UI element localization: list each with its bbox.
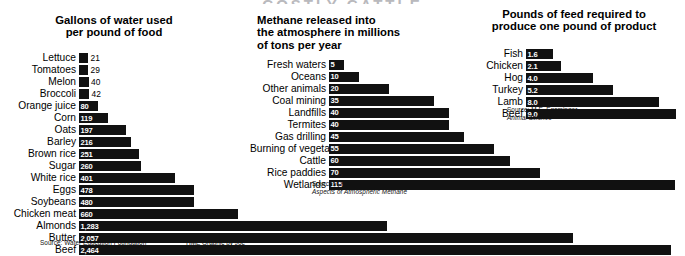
chart-source-feed-title: Animal Science: [507, 114, 552, 121]
bar: 2,464: [79, 245, 671, 255]
bar: 2,057: [79, 233, 573, 243]
bar-row: Broccoli42: [0, 89, 250, 100]
bar-row: Hog4.0: [465, 73, 685, 84]
chart-bars-water: Lettuce21Tomatoes29Melon40Broccoli42Oran…: [0, 39, 250, 256]
bar: [79, 77, 89, 87]
bar-row: Turkey5.2: [465, 85, 685, 96]
chart-source-methane: Source: Cicerone & Oremland, Biogeochemi…: [312, 180, 465, 195]
bar-label: Broccoli: [0, 89, 79, 99]
bar-label: Eggs: [0, 185, 79, 195]
bar-row: Coal mining35: [250, 95, 465, 106]
bar-row: Other animals20: [250, 83, 465, 94]
bar-row: Almonds1,283: [0, 221, 250, 232]
bar-value-label: 5.2: [526, 87, 537, 95]
bar-row: Eggs478: [0, 185, 250, 196]
bar-label: Other animals: [250, 84, 329, 94]
bar-value-label: 478: [79, 187, 93, 195]
bar-row: White rice401: [0, 173, 250, 184]
chart-bars-methane: Fresh waters5Oceans10Other animals20Coal…: [250, 51, 465, 190]
chart-title-methane: Methane released into the atmosphere in …: [250, 0, 465, 51]
bar-label: Chicken meat: [0, 209, 79, 219]
bar-row: Orange juice80: [0, 101, 250, 112]
bar: 5.2: [526, 85, 613, 95]
bar-row: Rice paddies70: [250, 167, 465, 178]
bar-row: Oceans10: [250, 71, 465, 82]
bar-row: Corn119: [0, 113, 250, 124]
bar-value-label: 480: [79, 199, 93, 207]
bar-label: Brown rice: [0, 149, 79, 159]
bar-label: Gas drilling: [250, 132, 329, 142]
bar-label: Almonds: [0, 221, 79, 231]
bar-row: Chicken meat660: [0, 209, 250, 220]
bar-value-label: 35: [329, 97, 339, 105]
bar: [79, 65, 88, 75]
bar-value-label: 42: [89, 90, 101, 98]
bar-row: Fresh waters5: [250, 59, 465, 70]
bar-value-label: 40: [329, 121, 339, 129]
bar: 35: [329, 96, 434, 106]
bar-value-label: 1.6: [526, 51, 537, 59]
bar: 20: [329, 84, 389, 94]
bar-label: Hog: [465, 73, 526, 83]
bar: 5: [329, 60, 344, 70]
bar-row: Landfills40: [250, 107, 465, 118]
bar-label: Fresh waters: [250, 60, 329, 70]
bar-value-label: 197: [79, 127, 93, 135]
bar: 660: [79, 209, 238, 219]
bar-value-label: 10: [329, 73, 339, 81]
bar-label: Melon: [0, 77, 79, 87]
bar-value-label: 8.0: [526, 99, 537, 107]
bar-row: Barley216: [0, 137, 250, 148]
bar-value-label: 1,283: [79, 223, 99, 231]
bar-label: Beef: [0, 245, 79, 255]
bar: 478: [79, 185, 194, 195]
bar: 40: [329, 120, 449, 130]
bar-value-label: 216: [79, 139, 93, 147]
bar: 80: [79, 101, 98, 111]
chart-source-feed-text: Source: M.E. Ensminger,: [507, 106, 579, 113]
bar-label: Turkey: [465, 85, 526, 95]
bar-label: Cattle: [250, 156, 329, 166]
bar-row: Burning of vegetation55: [250, 143, 465, 154]
bar: 40: [329, 108, 449, 118]
bar-row: Tomatoes29: [0, 65, 250, 76]
bar-value-label: 45: [329, 133, 339, 141]
bar: 260: [79, 161, 141, 171]
bar-label: Oceans: [250, 72, 329, 82]
bar-label: Fish: [465, 49, 526, 59]
bar-label: Burning of vegetation: [250, 144, 329, 154]
bar-value-label: 5: [329, 61, 335, 69]
bar: 55: [329, 144, 494, 154]
bar-row: Sugar260: [0, 161, 250, 172]
chart-panel-water: Gallons of water used per pound of food …: [0, 0, 250, 256]
bar-row: Termites40: [250, 119, 465, 130]
bar: 251: [79, 149, 139, 159]
bar: 1,283: [79, 221, 387, 231]
bar-row: Soybeans480: [0, 197, 250, 208]
chart-source-feed: Source: M.E. Ensminger, Animal Science: [507, 106, 579, 121]
bar-value-label: 119: [79, 115, 92, 123]
bar-value-label: 80: [79, 103, 89, 111]
chart-panel-feed: Pounds of feed required to produce one p…: [465, 0, 685, 121]
bar-label: Corn: [0, 113, 79, 123]
bar: 480: [79, 197, 194, 207]
chart-source-methane-text: Source: Cicerone & Oremland,: [312, 180, 402, 187]
bar: 4.0: [526, 73, 593, 83]
bar-label: Sugar: [0, 161, 79, 171]
bar-label: Soybeans: [0, 197, 79, 207]
bar-row: Chicken2.1: [465, 61, 685, 72]
bar-row: Oats197: [0, 125, 250, 136]
chart-title-water: Gallons of water used per pound of food: [0, 0, 228, 39]
bar-value-label: 55: [329, 145, 339, 153]
bar: 45: [329, 132, 464, 142]
bar-value-label: 21: [88, 54, 100, 62]
bar-value-label: 2,464: [79, 247, 99, 255]
bar-row: Brown rice251: [0, 149, 250, 160]
bar-value-label: 4.0: [526, 75, 537, 83]
bar-label: Rice paddies: [250, 168, 329, 178]
bar: [79, 53, 88, 63]
bar-row: Lettuce21: [0, 53, 250, 64]
bar-value-label: 20: [329, 85, 339, 93]
bar-label: Landfills: [250, 108, 329, 118]
bar: 216: [79, 137, 131, 147]
